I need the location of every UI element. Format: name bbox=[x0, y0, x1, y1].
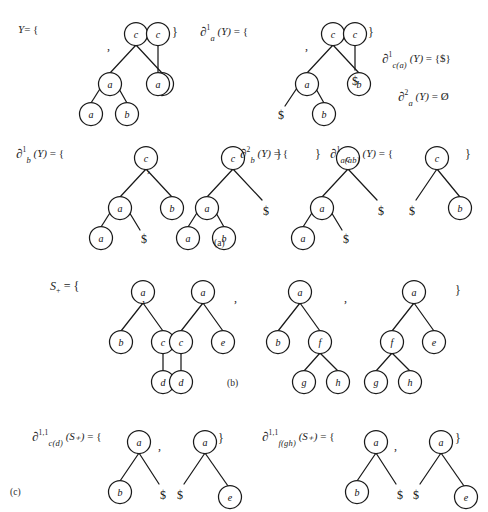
node-label: a bbox=[205, 203, 210, 214]
dollar-marker: $ bbox=[397, 488, 403, 502]
dollar-marker: $ bbox=[141, 232, 147, 246]
tree-node: c bbox=[344, 23, 367, 46]
label-d11cd: ∂1,1c(d) (S₊) = { bbox=[32, 429, 101, 445]
tree-d1aab-1: c $ b bbox=[404, 138, 484, 218]
superscript: 1,1 bbox=[268, 428, 278, 437]
tree-node: a bbox=[128, 431, 151, 454]
separator-comma: , bbox=[147, 162, 150, 174]
tree-node: c bbox=[147, 23, 170, 46]
tree-node: a bbox=[311, 197, 334, 220]
tree-node: h bbox=[399, 371, 422, 394]
node-label: e bbox=[432, 337, 437, 348]
node-label: a bbox=[320, 203, 325, 214]
partial-symbol: ∂ bbox=[262, 429, 268, 444]
tree-node: a bbox=[177, 227, 200, 250]
label-d1a: ∂1a (Y) = { bbox=[200, 24, 248, 40]
dollar-marker: $ bbox=[413, 488, 419, 502]
closing-brace-d11cd: } bbox=[218, 432, 224, 444]
subscript: b bbox=[26, 155, 30, 165]
dollar-marker: $ bbox=[409, 204, 415, 218]
subscript: f(gh) bbox=[278, 438, 296, 448]
subscript: c(d) bbox=[48, 438, 62, 448]
dollar-marker: $ bbox=[177, 488, 183, 502]
label-Y-set: Y= { bbox=[18, 24, 38, 35]
equals-open: = { bbox=[274, 147, 288, 159]
node-label: e bbox=[221, 337, 226, 348]
node-label: b bbox=[125, 109, 130, 120]
tree-node: d bbox=[170, 371, 193, 394]
equals-open: = { bbox=[64, 279, 80, 293]
superscript: 1 bbox=[388, 50, 392, 59]
tree-node: a bbox=[109, 197, 132, 220]
node-label: a bbox=[99, 233, 104, 244]
argument: (Y) bbox=[416, 90, 429, 102]
argument: (Y) bbox=[363, 147, 376, 159]
closing-brace-d2b: } bbox=[315, 148, 321, 160]
equals-open: = { bbox=[234, 25, 248, 37]
partial-symbol: ∂ bbox=[240, 146, 246, 161]
label-d1ca-equation: ∂1c(a) (Y) = {$} bbox=[382, 51, 451, 67]
rhs: = Ø bbox=[432, 90, 449, 102]
tree-node: b bbox=[116, 103, 139, 126]
tree-node: a bbox=[192, 281, 215, 304]
tree-node: h bbox=[327, 371, 350, 394]
partial-symbol: ∂ bbox=[200, 24, 206, 39]
closing-brace-d1a: } bbox=[368, 26, 374, 38]
node-label: e bbox=[464, 492, 469, 503]
node-label: c bbox=[353, 29, 358, 40]
node-label: a bbox=[305, 79, 310, 90]
subscript: a bbox=[408, 98, 412, 108]
dollar-marker: $ bbox=[263, 204, 269, 218]
subscript: a(ab) bbox=[340, 155, 359, 165]
tree-node: e bbox=[212, 331, 235, 354]
argument: (S₊) bbox=[299, 430, 318, 442]
node-label: g bbox=[302, 377, 307, 388]
equals-open: = { bbox=[379, 147, 393, 159]
node-label: c bbox=[179, 337, 184, 348]
superscript: 2 bbox=[404, 88, 408, 97]
tree-node: f bbox=[309, 331, 332, 354]
tree-Splus-4: a f e g h bbox=[360, 272, 460, 382]
node-label: b bbox=[322, 109, 327, 120]
node-label: b bbox=[276, 337, 281, 348]
node-label: c bbox=[435, 153, 440, 164]
tree-node: a bbox=[430, 431, 453, 454]
separator-comma: , bbox=[305, 40, 308, 52]
superscript: 1,1 bbox=[38, 428, 48, 437]
subscript: c(a) bbox=[392, 60, 406, 70]
separator-comma: , bbox=[107, 40, 110, 52]
node-label: a bbox=[412, 287, 417, 298]
tree-node: b bbox=[109, 481, 132, 504]
tree-node: b bbox=[449, 197, 472, 220]
dollar-marker: $ bbox=[278, 108, 284, 122]
partial-symbol: ∂ bbox=[330, 146, 336, 161]
tree-node: e bbox=[455, 486, 478, 509]
argument: (S₊) bbox=[66, 430, 85, 442]
node-label: c bbox=[231, 153, 236, 164]
subscript: a bbox=[210, 33, 214, 43]
tree-node: g bbox=[293, 371, 316, 394]
node-label: b bbox=[118, 487, 123, 498]
partial-symbol: ∂ bbox=[16, 146, 22, 161]
tree-node: c bbox=[170, 331, 193, 354]
node-label: b bbox=[458, 203, 463, 214]
node-label: a bbox=[201, 287, 206, 298]
node-label: a bbox=[137, 437, 142, 448]
tree-node: a bbox=[289, 281, 312, 304]
tree-node: a bbox=[296, 73, 319, 96]
label-d1aab: ∂1a(ab) (Y) = { bbox=[330, 146, 393, 162]
plus-subscript: + bbox=[56, 286, 61, 295]
node-label: c bbox=[156, 29, 161, 40]
tree-Splus-2: a c e d bbox=[160, 272, 250, 382]
node-label: a bbox=[118, 203, 123, 214]
figure-canvas: Y= { c a b a b , c a } ∂1a (Y) = { bbox=[0, 0, 488, 512]
tree-node: b bbox=[110, 331, 133, 354]
node-label: a bbox=[156, 79, 161, 90]
tree-node: a bbox=[196, 197, 219, 220]
tree-node: a bbox=[194, 431, 217, 454]
node-label: a bbox=[108, 79, 113, 90]
node-label: c bbox=[134, 29, 139, 40]
node-label: a bbox=[298, 287, 303, 298]
partial-symbol: ∂ bbox=[32, 429, 38, 444]
tree-node: a bbox=[403, 281, 426, 304]
